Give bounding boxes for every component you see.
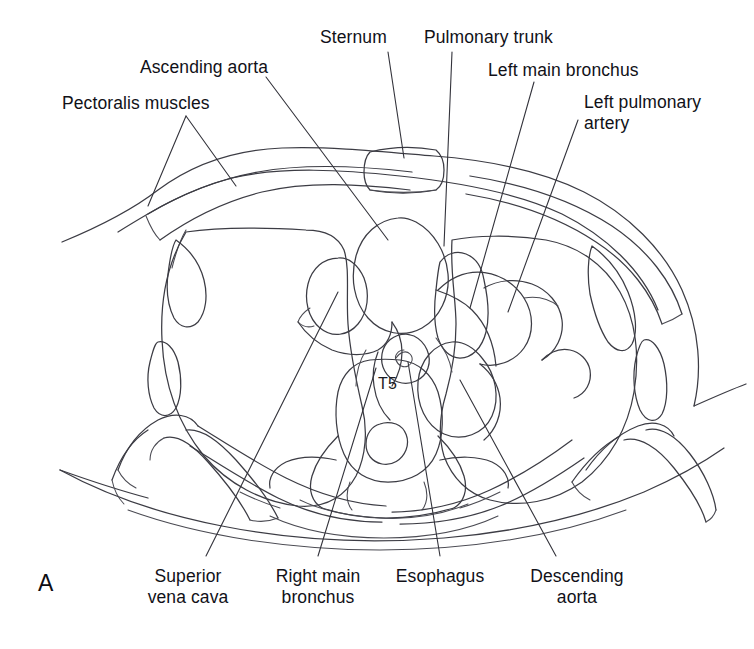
label-descending-aorta: Descending aorta — [516, 566, 638, 608]
leader-ascending-aorta — [266, 77, 388, 240]
leader-right-main-bronchus — [318, 368, 376, 556]
pectoralis-muscle-outline — [146, 166, 682, 324]
label-left-main-bronchus: Left main bronchus — [488, 60, 639, 81]
leader-esophagus — [408, 362, 440, 556]
label-pectoralis-muscles: Pectoralis muscles — [62, 93, 210, 114]
leader-left-pulmonary-artery — [508, 120, 578, 312]
leader-pulmonary-trunk — [444, 52, 452, 246]
leader-left-main-bronchus — [470, 82, 534, 308]
label-t5-vertebra: T5 — [378, 375, 397, 393]
rib-outlines-right — [112, 240, 386, 522]
leader-sternum — [388, 52, 404, 158]
panel-letter: A — [38, 570, 54, 597]
lung-fields-outline — [162, 228, 637, 506]
pulmonary-trunk-outline — [298, 252, 496, 386]
superior-vena-cava-outline — [298, 258, 367, 334]
leader-lines — [148, 52, 578, 556]
leader-pectoralis-2 — [186, 116, 236, 186]
label-esophagus: Esophagus — [384, 566, 496, 587]
label-pulmonary-trunk: Pulmonary trunk — [424, 27, 553, 48]
label-superior-vena-cava: Superior vena cava — [128, 566, 248, 608]
label-sternum: Sternum — [320, 27, 387, 48]
label-left-pulmonary-artery: Left pulmonary artery — [584, 92, 701, 134]
left-pulmonary-artery-outline — [484, 281, 590, 398]
ascending-aorta-outline — [353, 218, 448, 334]
label-ascending-aorta: Ascending aorta — [140, 57, 268, 78]
leader-pectoralis-1 — [148, 116, 186, 206]
label-right-main-bronchus: Right main bronchus — [258, 566, 378, 608]
anatomy-figure: Pectoralis muscles Ascending aorta Stern… — [0, 0, 754, 649]
